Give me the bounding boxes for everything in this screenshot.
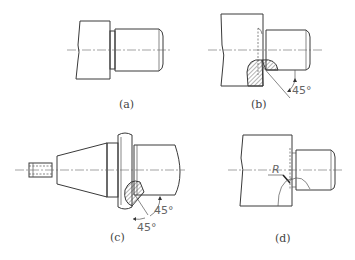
arrowhead-c1: [158, 196, 162, 200]
fillet-top-b: [258, 28, 262, 34]
figure-b: 45° (b): [208, 14, 323, 111]
radius-label-d: R: [272, 163, 280, 176]
tool-section-b: [247, 60, 263, 86]
caption-d: (d): [275, 232, 291, 245]
arrowhead-b1: [293, 78, 297, 82]
drawing-canvas: (a) 45° (b) 4: [0, 0, 355, 260]
caption-b: (b): [251, 98, 267, 111]
figure-d: R (d): [228, 135, 342, 245]
caption-a: (a): [119, 98, 134, 111]
tool-axis-c: [135, 195, 148, 215]
angle-label-c2: 45°: [137, 221, 157, 234]
tool-axis-b: [262, 66, 290, 98]
angle-label-c1: 45°: [154, 204, 174, 217]
tool-section-c: [125, 181, 144, 206]
workpiece-block-d: [240, 135, 292, 206]
angle-label-b: 45°: [292, 84, 312, 97]
figure-c: 45° 45° (c): [15, 133, 185, 244]
arrowhead-c2: [133, 217, 136, 221]
caption-c: (c): [110, 231, 125, 244]
figure-a: (a): [67, 21, 172, 111]
